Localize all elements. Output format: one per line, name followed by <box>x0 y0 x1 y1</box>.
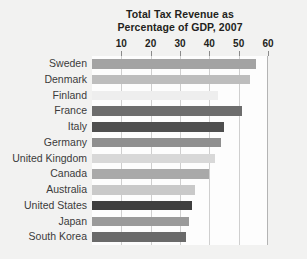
bar-row: Sweden <box>0 56 307 72</box>
bar <box>92 169 209 179</box>
bar <box>92 154 215 164</box>
bar-row: Denmark <box>0 72 307 88</box>
bar-row: Canada <box>0 166 307 182</box>
bar-row: United States <box>0 198 307 214</box>
bar <box>92 232 186 242</box>
bar <box>92 185 195 195</box>
bar-row: United Kingdom <box>0 151 307 167</box>
bar <box>92 201 192 211</box>
category-label: Sweden <box>49 56 87 72</box>
bar <box>92 217 189 227</box>
category-label: Germany <box>44 135 87 151</box>
bar <box>92 75 250 85</box>
bar-row: Australia <box>0 182 307 198</box>
category-label: Australia <box>46 182 87 198</box>
category-label: Canada <box>50 166 87 182</box>
bar-row: Finland <box>0 88 307 104</box>
category-label: France <box>54 103 87 119</box>
category-label: Italy <box>68 119 87 135</box>
bar <box>92 59 256 69</box>
category-label: Finland <box>53 88 87 104</box>
bar <box>92 122 224 132</box>
bar-rows: SwedenDenmarkFinlandFranceItalyGermanyUn… <box>0 0 307 259</box>
bar-row: Germany <box>0 135 307 151</box>
bar <box>92 138 221 148</box>
bar-row: France <box>0 103 307 119</box>
bar <box>92 106 242 116</box>
bar <box>92 91 218 101</box>
bar-row: South Korea <box>0 229 307 245</box>
tax-revenue-bar-chart: Total Tax Revenue as Percentage of GDP, … <box>0 0 307 259</box>
category-label: United States <box>24 198 87 214</box>
bar-row: Japan <box>0 214 307 230</box>
bar-row: Italy <box>0 119 307 135</box>
category-label: Denmark <box>44 72 87 88</box>
category-label: South Korea <box>29 229 87 245</box>
category-label: United Kingdom <box>12 151 87 167</box>
category-label: Japan <box>58 214 87 230</box>
